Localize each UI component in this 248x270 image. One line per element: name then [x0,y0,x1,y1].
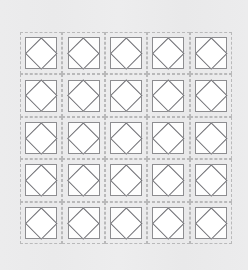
inner-diamond [68,37,100,69]
outer-square [152,164,184,196]
outer-square [152,207,184,239]
pattern-canvas [0,0,248,270]
inner-diamond [152,122,184,154]
outer-square [110,122,142,154]
outer-square [25,37,57,69]
grid-cell-r4-c5[interactable] [190,159,232,201]
inner-diamond [68,122,100,154]
inner-diamond [68,164,100,196]
grid-cell-r3-c4[interactable] [147,117,189,159]
outer-square [25,80,57,112]
outer-square [195,207,227,239]
outer-square [110,37,142,69]
grid-cell-r2-c3[interactable] [105,74,147,116]
grid-cell-r2-c1[interactable] [20,74,62,116]
grid-cell-r1-c5[interactable] [190,32,232,74]
inner-diamond [195,80,227,112]
grid-cell-r5-c5[interactable] [190,202,232,244]
outer-square [152,122,184,154]
inner-diamond [195,164,227,196]
inner-diamond [25,207,57,239]
inner-diamond [25,122,57,154]
outer-square [110,207,142,239]
inner-diamond [110,207,142,239]
outer-square [152,80,184,112]
inner-diamond [152,37,184,69]
outer-square [68,37,100,69]
grid-cell-r2-c2[interactable] [62,74,104,116]
outer-square [25,164,57,196]
inner-diamond [68,80,100,112]
outer-square [25,207,57,239]
grid-cell-r2-c5[interactable] [190,74,232,116]
grid-cell-r5-c4[interactable] [147,202,189,244]
grid-cell-r1-c1[interactable] [20,32,62,74]
inner-diamond [25,80,57,112]
outer-square [152,37,184,69]
outer-square [25,122,57,154]
grid-cell-r4-c1[interactable] [20,159,62,201]
grid-cell-r4-c4[interactable] [147,159,189,201]
inner-diamond [25,37,57,69]
inner-diamond [152,164,184,196]
grid-cell-r1-c4[interactable] [147,32,189,74]
inner-diamond [110,122,142,154]
outer-square [195,164,227,196]
outer-square [68,207,100,239]
grid-cell-r1-c3[interactable] [105,32,147,74]
grid-cell-r3-c1[interactable] [20,117,62,159]
grid-cell-r3-c3[interactable] [105,117,147,159]
grid-cell-r5-c2[interactable] [62,202,104,244]
grid-cell-r4-c2[interactable] [62,159,104,201]
inner-diamond [110,37,142,69]
outer-square [68,164,100,196]
outer-square [195,80,227,112]
outer-square [195,122,227,154]
inner-diamond [152,207,184,239]
inner-diamond [110,80,142,112]
inner-diamond [68,207,100,239]
outer-square [110,80,142,112]
inner-diamond [25,164,57,196]
grid-cell-r4-c3[interactable] [105,159,147,201]
inner-diamond [110,164,142,196]
outer-square [68,80,100,112]
outer-square [68,122,100,154]
outer-square [110,164,142,196]
inner-diamond [195,207,227,239]
grid-cell-r3-c5[interactable] [190,117,232,159]
grid-cell-r5-c3[interactable] [105,202,147,244]
pattern-grid [20,32,232,244]
grid-cell-r2-c4[interactable] [147,74,189,116]
outer-square [195,37,227,69]
inner-diamond [152,80,184,112]
grid-cell-r5-c1[interactable] [20,202,62,244]
grid-cell-r3-c2[interactable] [62,117,104,159]
grid-cell-r1-c2[interactable] [62,32,104,74]
inner-diamond [195,122,227,154]
inner-diamond [195,37,227,69]
